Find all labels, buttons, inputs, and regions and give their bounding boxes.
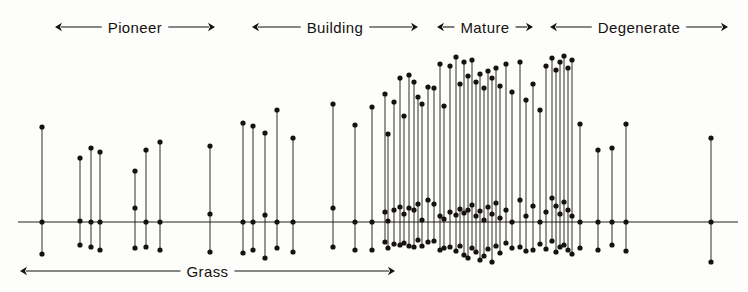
stem-top-dot	[549, 55, 554, 60]
stem-top-dot	[523, 97, 528, 102]
stem-mid-dot	[481, 217, 486, 222]
stem-chart: PioneerBuildingMatureDegenerate Grass	[0, 0, 748, 292]
stem-bottom-dot	[262, 255, 267, 260]
phase-arrow-building-arrowhead-right	[411, 23, 418, 31]
stem-top-dot	[382, 91, 387, 96]
stem-bottom-dot	[489, 259, 494, 264]
stem-record	[457, 81, 462, 248]
stem-top-dot	[557, 59, 562, 64]
stem-record	[553, 67, 558, 254]
stem-top-dot	[97, 149, 102, 154]
stem-record	[577, 121, 582, 250]
stem-bottom-dot	[447, 244, 452, 249]
stem-mid-dot	[352, 219, 357, 224]
stem-mid-dot	[708, 219, 713, 224]
phase-arrow-degenerate: Degenerate	[550, 19, 728, 36]
stem-bottom-dot	[157, 247, 162, 252]
stem-top-dot	[623, 121, 628, 126]
stem-mid-dot	[543, 209, 548, 214]
stem-mid-dot	[595, 219, 600, 224]
stem-mid-dot	[523, 213, 528, 218]
stem-record	[708, 135, 713, 264]
stem-top-dot	[489, 75, 494, 80]
stem-top-dot	[708, 135, 713, 140]
stem-top-dot	[569, 57, 574, 62]
stem-bottom-dot	[406, 243, 411, 248]
stem-record	[419, 101, 424, 248]
stem-record	[391, 99, 396, 246]
phase-arrow-pioneer-arrowhead-right	[208, 23, 215, 31]
stem-mid-dot	[553, 203, 558, 208]
stem-record	[369, 104, 374, 252]
stem-record	[97, 149, 102, 252]
stem-mid-dot	[411, 207, 416, 212]
stem-record	[88, 145, 93, 249]
stem-bottom-dot	[543, 246, 548, 251]
stem-top-dot	[330, 101, 335, 106]
stem-record	[441, 103, 446, 250]
bottom-phase-arrows: Grass	[20, 263, 395, 280]
phase-arrow-degenerate-arrowhead-left	[550, 23, 557, 31]
top-phase-arrows: PioneerBuildingMatureDegenerate	[55, 19, 728, 36]
stem-mid-dot	[132, 205, 137, 210]
stem-bottom-dot	[369, 247, 374, 252]
stem-record	[262, 130, 267, 260]
stem-mid-dot	[143, 219, 148, 224]
stem-bottom-dot	[425, 239, 430, 244]
stem-record	[401, 113, 406, 245]
stem-mid-dot	[290, 219, 295, 224]
stem-top-dot	[477, 71, 482, 76]
stem-bottom-dot	[609, 242, 614, 247]
stem-top-dot	[385, 131, 390, 136]
stem-mid-dot	[77, 218, 82, 223]
stem-record	[250, 123, 255, 252]
phase-arrow-mature: Mature	[437, 19, 533, 36]
stem-top-dot	[274, 107, 279, 112]
stem-bottom-dot	[419, 243, 424, 248]
stem-bottom-dot	[481, 253, 486, 258]
stem-record	[385, 131, 390, 250]
stem-record	[39, 124, 44, 256]
stem-mid-dot	[401, 211, 406, 216]
stem-record	[425, 84, 430, 244]
stem-bottom-dot	[565, 247, 570, 252]
stem-top-dot	[415, 94, 420, 99]
phase-arrow-pioneer-arrowhead-left	[55, 23, 62, 31]
stem-mid-dot	[415, 201, 420, 206]
stem-mid-dot	[609, 219, 614, 224]
stem-mid-dot	[473, 213, 478, 218]
stem-mid-dot	[623, 219, 628, 224]
stem-group	[39, 53, 713, 264]
phase-arrow-building-label: Building	[307, 19, 364, 36]
phase-arrow-pioneer-label: Pioneer	[108, 19, 163, 36]
stem-bottom-dot	[469, 245, 474, 250]
stem-bottom-dot	[415, 237, 420, 242]
stem-record	[623, 121, 628, 253]
stem-bottom-dot	[77, 242, 82, 247]
stem-mid-dot	[497, 215, 502, 220]
stem-top-dot	[517, 59, 522, 64]
stem-record	[565, 65, 570, 252]
stem-top-dot	[497, 83, 502, 88]
stem-mid-dot	[397, 204, 402, 209]
stem-record	[461, 59, 466, 257]
stem-bottom-dot	[517, 244, 522, 249]
stem-top-dot	[461, 59, 466, 64]
stem-bottom-dot	[595, 247, 600, 252]
stem-record	[143, 147, 148, 249]
stem-record	[485, 68, 490, 251]
stem-top-dot	[561, 53, 566, 58]
stem-top-dot	[77, 155, 82, 160]
stem-record	[207, 143, 212, 254]
stem-bottom-dot	[143, 244, 148, 249]
stem-record	[609, 145, 614, 247]
phase-arrow-grass: Grass	[20, 263, 395, 280]
stem-mid-dot	[431, 201, 436, 206]
stem-top-dot	[143, 147, 148, 152]
stem-top-dot	[391, 99, 396, 104]
stem-top-dot	[406, 72, 411, 77]
stem-record	[437, 61, 442, 252]
stem-mid-dot	[477, 208, 482, 213]
phase-arrow-mature-label: Mature	[460, 19, 509, 36]
stem-mid-dot	[517, 197, 522, 202]
